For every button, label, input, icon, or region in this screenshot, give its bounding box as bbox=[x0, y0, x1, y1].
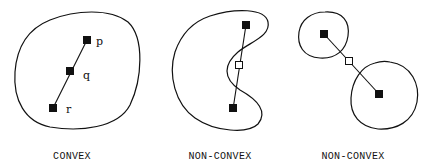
panel-non-convex-kidney: NON-CONVEX bbox=[172, 11, 268, 162]
point-kidney-outside bbox=[236, 62, 243, 69]
convex-set-outline bbox=[15, 12, 140, 129]
point-kidney-top bbox=[242, 21, 250, 29]
convexity-diagram: p q r CONVEX NON-CONVEX NON-CONVEX bbox=[0, 0, 431, 167]
point-large-blob bbox=[375, 90, 383, 98]
caption-non-convex-2: NON-CONVEX bbox=[321, 151, 384, 162]
point-q bbox=[66, 67, 74, 75]
panel-convex: p q r CONVEX bbox=[15, 12, 140, 162]
point-kidney-bottom bbox=[229, 104, 237, 112]
panel-non-convex-two-blobs: NON-CONVEX bbox=[299, 12, 418, 162]
point-between-blobs bbox=[346, 58, 353, 65]
label-q: q bbox=[83, 69, 90, 82]
caption-convex: CONVEX bbox=[53, 151, 91, 162]
large-blob-outline bbox=[351, 61, 418, 129]
label-p: p bbox=[96, 35, 103, 48]
caption-non-convex-1: NON-CONVEX bbox=[188, 151, 251, 162]
point-p bbox=[83, 36, 91, 44]
label-r: r bbox=[66, 103, 72, 116]
point-small-blob bbox=[320, 30, 328, 38]
point-r bbox=[49, 104, 57, 112]
kidney-set-outline bbox=[172, 11, 268, 131]
